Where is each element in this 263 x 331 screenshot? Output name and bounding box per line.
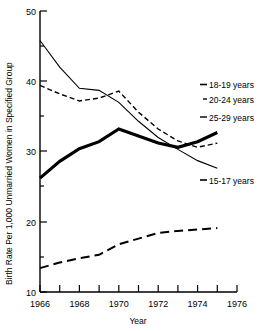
legend-label-15-17: 15-17 years — [209, 176, 254, 186]
legend-leader-lines — [200, 85, 207, 181]
legend-label-25-29: 25-29 years — [209, 113, 254, 123]
legend-label-18-19: 18-19 years — [209, 80, 254, 90]
y-tick-20: 20 — [26, 218, 36, 228]
series-line-18-19 — [40, 41, 217, 169]
legend-label-20-24: 20-24 years — [209, 95, 254, 105]
y-axis-ticks — [40, 11, 47, 292]
x-tick-1976: 1976 — [227, 299, 247, 309]
series-paths — [40, 41, 217, 269]
x-tick-1968: 1968 — [69, 299, 89, 309]
y-tick-40: 40 — [26, 77, 36, 87]
x-tick-1974: 1974 — [188, 299, 208, 309]
y-axis-title: Birth Rate Per 1,000 Unmarried Women in … — [4, 62, 14, 285]
y-axis-tick-labels: 50 40 30 20 10 — [26, 7, 36, 298]
birth-rate-line-chart: Birth Rate Per 1,000 Unmarried Women in … — [0, 0, 263, 331]
series-line-25-29 — [40, 129, 217, 178]
y-tick-30: 30 — [26, 147, 36, 157]
x-tick-1966: 1966 — [30, 299, 50, 309]
chart-container: Birth Rate Per 1,000 Unmarried Women in … — [0, 0, 263, 331]
x-axis-ticks — [40, 285, 237, 292]
series-line-15-17 — [40, 228, 217, 268]
y-tick-10: 10 — [26, 288, 36, 298]
x-tick-1972: 1972 — [148, 299, 168, 309]
x-tick-1970: 1970 — [109, 299, 129, 309]
y-tick-50: 50 — [26, 7, 36, 17]
x-axis-tick-labels: 1966 1968 1970 1972 1974 1976 — [30, 299, 247, 309]
x-axis-title: Year — [129, 316, 146, 326]
series-line-20-24 — [40, 85, 217, 147]
